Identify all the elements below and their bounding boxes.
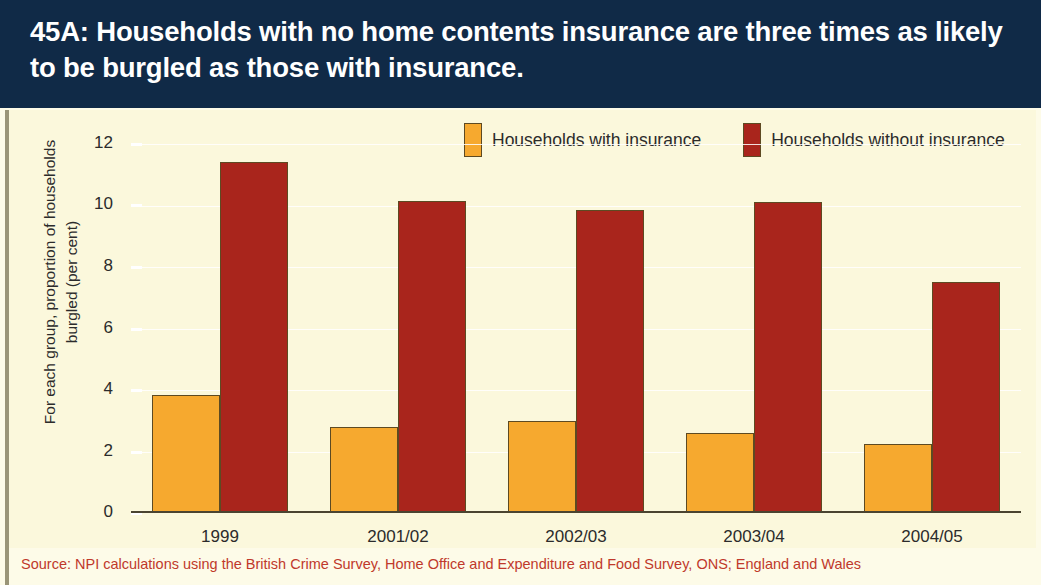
- y-axis-title: For each group, proportion of households…: [39, 82, 83, 482]
- bar-without-insurance: [932, 282, 1000, 513]
- source-bar: Source: NPI calculations using the Briti…: [5, 548, 1036, 585]
- bar-group: 2003/04: [665, 144, 843, 513]
- bar-with-insurance: [686, 433, 754, 513]
- bar-with-insurance: [508, 421, 576, 513]
- x-tick-label: 2003/04: [723, 527, 784, 547]
- y-axis-title-line: For each group, proportion of households: [39, 82, 61, 482]
- y-tick-label: 10: [94, 194, 113, 214]
- bar-group: 2004/05: [843, 144, 1021, 513]
- bars-layer: 19992001/022002/032003/042004/05: [131, 144, 1021, 513]
- bar-without-insurance: [220, 162, 288, 513]
- bar-with-insurance: [864, 444, 932, 513]
- x-tick-label: 2001/02: [367, 527, 428, 547]
- x-axis-line: [131, 511, 1021, 513]
- bar-without-insurance: [398, 201, 466, 513]
- title-banner: 45A: Households with no home contents in…: [0, 0, 1041, 108]
- plot-area: 121086420 19992001/022002/032003/042004/…: [131, 144, 1021, 513]
- bar-with-insurance: [152, 395, 220, 513]
- bar-without-insurance: [576, 210, 644, 513]
- y-tick-label: 0: [104, 502, 113, 522]
- y-tick-label: 12: [94, 133, 113, 153]
- bar-with-insurance: [330, 427, 398, 513]
- y-tick-label: 8: [104, 256, 113, 276]
- x-tick-label: 1999: [201, 527, 239, 547]
- page-title: 45A: Households with no home contents in…: [30, 14, 1010, 87]
- source-note: Source: NPI calculations using the Briti…: [21, 556, 861, 572]
- y-tick-label: 6: [104, 318, 113, 338]
- bar-without-insurance: [754, 202, 822, 513]
- chart-figure: 45A: Households with no home contents in…: [0, 0, 1041, 585]
- y-axis-title-line: burgled (per cent): [61, 82, 83, 482]
- x-tick-label: 2002/03: [545, 527, 606, 547]
- y-tick-label: 2: [104, 441, 113, 461]
- bar-group: 2002/03: [487, 144, 665, 513]
- bar-group: 2001/02: [309, 144, 487, 513]
- bar-group: 1999: [131, 144, 309, 513]
- y-tick-label: 4: [104, 379, 113, 399]
- x-tick-label: 2004/05: [901, 527, 962, 547]
- chart-panel: Households with insuranceHouseholds with…: [5, 110, 1036, 548]
